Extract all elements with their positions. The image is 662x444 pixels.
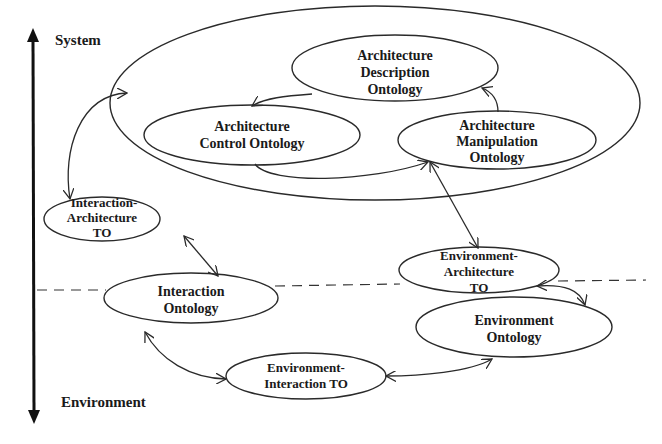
edge-description-to-control: [252, 94, 312, 106]
svg-text:Manipulation: Manipulation: [456, 134, 538, 149]
node-architecture-description-ontology: Architecture Description Ontology: [292, 35, 498, 101]
arrow-up-icon: [27, 28, 39, 42]
axis-line: [33, 40, 34, 412]
node-environment-architecture-to: Environment- Architecture TO: [399, 247, 559, 295]
node-interaction-architecture-to: Interaction- Architecture TO: [44, 195, 160, 241]
svg-text:Interaction: Interaction: [158, 284, 225, 299]
svg-text:Interaction TO: Interaction TO: [264, 376, 348, 391]
node-environment-ontology: Environment Ontology: [416, 297, 612, 357]
edge-system-interaction-architecture: [68, 93, 127, 199]
edge-manipulation-environment-architecture: [430, 162, 478, 248]
svg-text:TO: TO: [93, 225, 112, 240]
svg-text:TO: TO: [470, 280, 489, 295]
svg-text:Control Ontology: Control Ontology: [199, 136, 304, 151]
edge-interaction-architecture-interaction-ontology: [184, 236, 218, 276]
svg-text:Environment: Environment: [474, 313, 553, 328]
system-environment-boundary: [37, 280, 646, 290]
svg-text:Environment-: Environment-: [267, 360, 345, 375]
axis-bottom-label: Environment: [61, 394, 146, 410]
svg-text:Architecture: Architecture: [67, 210, 137, 225]
svg-text:Ontology: Ontology: [367, 82, 422, 97]
node-interaction-ontology: Interaction Ontology: [104, 273, 278, 323]
svg-text:Architecture: Architecture: [357, 48, 433, 63]
edge-manipulation-to-description: [482, 88, 498, 112]
node-architecture-control-ontology: Architecture Control Ontology: [144, 105, 360, 165]
edge-environment-interaction-interaction-ontology: [145, 332, 226, 379]
node-architecture-manipulation-ontology: Architecture Manipulation Ontology: [398, 111, 596, 169]
svg-text:Ontology: Ontology: [163, 301, 218, 316]
svg-text:Interaction-: Interaction-: [71, 195, 137, 210]
edge-environment-architecture-environment-ontology: [537, 286, 585, 305]
svg-text:Architecture: Architecture: [214, 119, 290, 134]
svg-text:Architecture: Architecture: [459, 118, 535, 133]
svg-text:Ontology: Ontology: [486, 330, 541, 345]
node-environment-interaction-to: Environment- Interaction TO: [226, 353, 386, 399]
svg-text:Ontology: Ontology: [469, 150, 524, 165]
svg-text:Environment-: Environment-: [440, 248, 518, 263]
svg-text:Architecture: Architecture: [444, 264, 514, 279]
edge-environment-ontology-environment-interaction: [386, 359, 492, 376]
arrow-down-icon: [28, 410, 40, 424]
ontology-diagram: System Environment Architecture Descript…: [0, 0, 662, 444]
svg-text:Description: Description: [360, 65, 429, 80]
axis-top-label: System: [55, 32, 101, 48]
system-environment-axis: [27, 28, 40, 424]
